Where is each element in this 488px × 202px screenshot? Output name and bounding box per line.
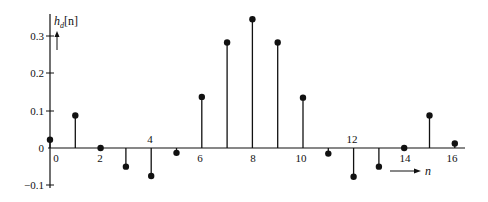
x-axis-label: n [425, 164, 431, 178]
stem-marker [401, 145, 407, 151]
stem-marker [275, 39, 281, 45]
x-tick-label: 14 [400, 152, 412, 164]
stem-marker [123, 163, 129, 169]
stem-marker [376, 163, 382, 169]
x-tick-label: 16 [447, 152, 459, 164]
y-tick-label: 0 [39, 142, 45, 154]
y-tick-label: 0.2 [30, 67, 44, 79]
y-tick-label: 0.3 [30, 30, 44, 42]
stem-marker [47, 137, 53, 143]
stem-marker [426, 112, 432, 118]
y-tick-label: 0.1 [30, 105, 44, 117]
stem-marker [173, 150, 179, 156]
x-tick-label: 0 [53, 152, 59, 164]
stem-marker [148, 173, 154, 179]
stem-marker [300, 94, 306, 100]
x-tick-label: 12 [347, 133, 358, 145]
y-arrow-head-icon [55, 31, 60, 37]
stem-plot: 0.3 0.2 0.1 0 −0.1 hd[n] 0 2 4 6 8 10 12… [0, 0, 488, 202]
stem-marker [350, 174, 356, 180]
x-tick-label: 10 [296, 152, 308, 164]
x-tick-label: 4 [147, 133, 153, 145]
stem-marker [452, 140, 458, 146]
stem-marker [97, 145, 103, 151]
x-tick-label: 2 [97, 152, 103, 164]
y-axis-label: hd[n] [54, 14, 78, 30]
x-tick-label: 8 [250, 152, 256, 164]
stem-marker [199, 94, 205, 100]
x-arrow-head-icon [414, 169, 421, 174]
stem-marker [224, 39, 230, 45]
stem-marker [72, 112, 78, 118]
x-tick-label: 6 [197, 152, 203, 164]
stem-marker [249, 16, 255, 22]
stem-marker [325, 150, 331, 156]
y-tick-label: −0.1 [24, 179, 44, 191]
